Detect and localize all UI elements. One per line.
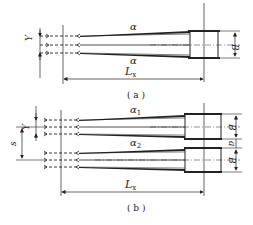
spacing-label-a: Y xyxy=(24,34,34,41)
spacing-label-b: Y xyxy=(21,123,31,130)
offset-label-b: s xyxy=(8,141,18,146)
gap-label-b: a xyxy=(227,141,237,146)
figure-a xyxy=(40,3,240,84)
width-label-1-b: B xyxy=(227,123,237,131)
angle-label-2-b: α2 xyxy=(130,137,141,150)
angle-label-top-a: α xyxy=(130,21,137,32)
caption-b: ( b ) xyxy=(127,203,146,213)
angle-label-1-b: α1 xyxy=(130,104,141,117)
width-label-2-b: B xyxy=(227,156,237,164)
length-label-b: Lx xyxy=(124,178,136,192)
length-label-a: Lx xyxy=(124,65,136,79)
drum-b1 xyxy=(185,114,221,139)
caption-a: ( a ) xyxy=(127,90,145,100)
diagram-canvas: α α B Y Lx ( a ) xyxy=(0,0,253,225)
width-label-a: B xyxy=(230,43,240,51)
